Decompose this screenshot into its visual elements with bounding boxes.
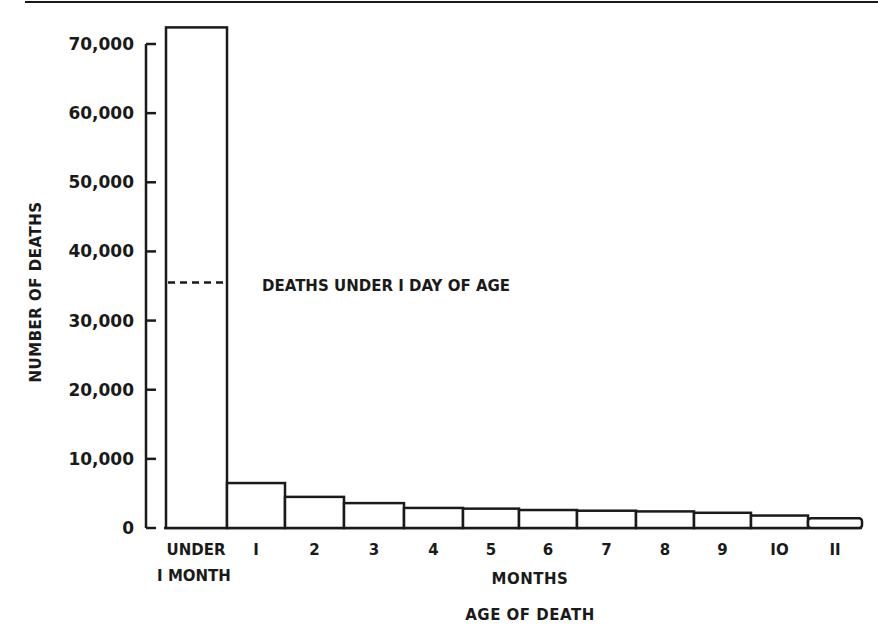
x-category-label: 6 [543, 541, 553, 559]
x-axis-subtitle: MONTHS [492, 570, 569, 588]
y-tick-label: 10,000 [68, 449, 134, 469]
x-category-label: II [829, 541, 840, 559]
bar-month-4 [404, 508, 463, 528]
bar-month-7 [577, 511, 636, 528]
bar-month-10 [751, 516, 808, 528]
x-category-label: I MONTH [157, 567, 231, 585]
y-axis: 010,00020,00030,00040,00050,00060,00070,… [68, 34, 156, 538]
x-category-label: 4 [428, 541, 438, 559]
bar-month-5 [463, 509, 519, 528]
bar-under-1-month [166, 27, 227, 528]
x-category-label: 7 [601, 541, 611, 559]
y-tick-label: 0 [122, 518, 134, 538]
x-category-label: 5 [486, 541, 496, 559]
infant-deaths-histogram: NUMBER OF DEATHS 010,00020,00030,00040,0… [0, 0, 878, 641]
bar-month-9 [694, 513, 751, 528]
x-category-label: 8 [660, 541, 670, 559]
y-tick-label: 50,000 [68, 172, 134, 192]
x-category-label: UNDER [167, 541, 226, 559]
bar-month-11 [808, 518, 862, 528]
x-category-label: I [253, 541, 259, 559]
y-tick-label: 70,000 [68, 34, 134, 54]
bar-month-3 [344, 503, 404, 528]
y-tick-label: 20,000 [68, 380, 134, 400]
y-tick-label: 30,000 [68, 311, 134, 331]
bar-month-8 [636, 511, 694, 528]
x-category-label: 9 [717, 541, 727, 559]
y-tick-label: 40,000 [68, 241, 134, 261]
x-category-label: 2 [309, 541, 319, 559]
y-axis-title: NUMBER OF DEATHS [27, 201, 45, 382]
x-category-label: 3 [369, 541, 379, 559]
annotation-label: DEATHS UNDER I DAY OF AGE [262, 277, 510, 295]
y-tick-label: 60,000 [68, 103, 134, 123]
x-axis-title: AGE OF DEATH [465, 606, 595, 624]
bar-month-6 [519, 510, 577, 528]
x-category-label: IO [770, 541, 788, 559]
bar-month-1 [227, 483, 285, 528]
bar-month-2 [285, 497, 344, 528]
